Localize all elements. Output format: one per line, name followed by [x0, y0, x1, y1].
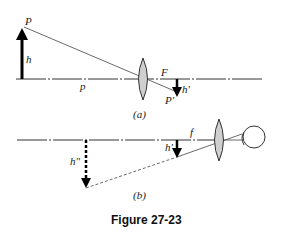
- label-P: P: [24, 15, 32, 27]
- lens-b: [215, 119, 224, 161]
- label-P-prime: P′: [164, 94, 175, 106]
- ray-b: [177, 134, 242, 157]
- panel-b: h″ f h′ (b): [17, 119, 265, 202]
- label-F: F: [160, 66, 168, 78]
- figure-caption: Figure 27-23: [111, 213, 182, 227]
- panel-b-label: (b): [133, 189, 146, 202]
- lens-a: [139, 58, 148, 100]
- label-h-prime-a: h′: [182, 83, 191, 95]
- label-h-double-prime: h″: [70, 155, 81, 167]
- virtual-ray: [86, 157, 177, 188]
- label-f: f: [190, 126, 195, 138]
- panel-a: P h p F h′ P′ (a): [16, 15, 263, 121]
- label-p: p: [79, 80, 86, 92]
- panel-a-label: (a): [133, 108, 146, 121]
- ray-a: [24, 27, 177, 92]
- label-h-prime-b: h′: [165, 141, 174, 153]
- eye-icon: [243, 126, 265, 148]
- figure-diagram: P h p F h′ P′ (a) h″ f h′ (b) Figure 27-…: [0, 0, 281, 238]
- label-h: h: [26, 53, 32, 65]
